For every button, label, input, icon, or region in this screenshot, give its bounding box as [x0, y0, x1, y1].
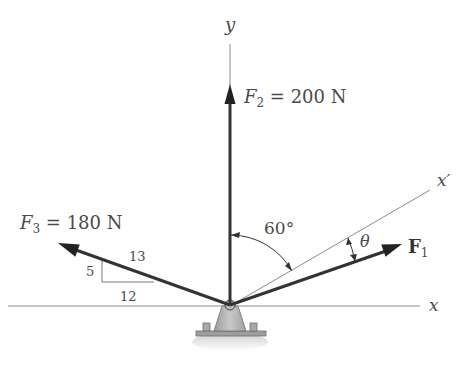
diagram-canvas: [0, 0, 471, 366]
x-prime-axis-line: [230, 190, 430, 306]
force-f3-symbol: F: [20, 212, 33, 233]
force-f2-symbol: F: [244, 86, 257, 107]
bolt-right: [250, 323, 257, 331]
angle-60-arrow-top: [231, 232, 240, 238]
force-f3-shaft: [76, 250, 230, 305]
slope-run-label: 12: [120, 290, 137, 303]
force-f1-subscript: 1: [421, 246, 429, 260]
angle-theta-label: θ: [360, 234, 370, 250]
force-f3-magnitude: = 180 N: [40, 212, 122, 233]
bolt-left: [203, 323, 210, 331]
force-f2-label: F2 = 200 N: [244, 88, 347, 109]
force-f1-arrowhead: [381, 244, 402, 257]
y-axis-label: y: [225, 16, 235, 34]
angle-60-label: 60°: [264, 220, 294, 237]
force-f1-symbol: F: [408, 236, 421, 257]
slope-triangle: [102, 261, 154, 282]
force-f1-label: F1: [408, 238, 428, 259]
slope-hypotenuse-label: 13: [129, 250, 146, 263]
x-axis-label: x: [429, 297, 439, 314]
x-prime-axis-label: x′: [437, 172, 450, 189]
slope-rise-label: 5: [86, 265, 94, 278]
angle-60-arrow-bottom: [285, 262, 292, 271]
force-f3-subscript: 3: [33, 222, 41, 236]
angle-60-arc: [231, 235, 292, 271]
force-f3-label: F3 = 180 N: [20, 214, 123, 235]
angle-theta-arrow-top: [346, 238, 352, 245]
force-f1-shaft: [230, 251, 386, 305]
base-plate: [196, 331, 266, 336]
force-f2-arrowhead: [225, 84, 236, 104]
force-f2-subscript: 2: [257, 96, 265, 110]
force-f2-magnitude: = 200 N: [264, 86, 346, 107]
force-diagram: y F2 = 200 N F3 = 180 N 13 5 12 60° θ F1…: [0, 0, 471, 366]
force-f3-arrowhead: [58, 243, 80, 257]
